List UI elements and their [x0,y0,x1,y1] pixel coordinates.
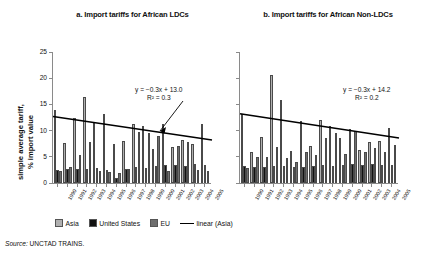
bar-b-1997-eu [315,155,317,183]
x-tick-b-8 [322,184,323,187]
bar-b-1998-eu [325,138,327,183]
y-tick-b-0 [236,183,239,184]
x-tick-b-2 [264,184,265,187]
bar-b-1990-eu [246,168,248,183]
panel-title-b: b. Import tariffs for African Non-LDCs [228,10,428,19]
legend-item-linear-asia-: linear (Asia) [180,220,233,227]
x-tick-label-b-4: 1994 [293,188,304,201]
x-tick-label-b-14: 2004 [391,188,402,201]
legend-color-swatch-united-states [89,219,97,227]
x-tick-b-5 [293,184,294,187]
x-tick-b-4 [283,184,284,187]
legend-item-united-states: United States [89,219,140,227]
source-value: UNCTAD TRAINS. [28,240,85,247]
x-tick-b-9 [332,184,333,187]
x-tick-b-11 [352,184,353,187]
source-note: Source: UNCTAD TRAINS. [5,240,84,247]
bar-b-2000-eu [344,154,346,183]
x-tick-label-b-15: 2005 [401,188,412,201]
bar-b-2004-eu [384,152,386,183]
x-tick-b-14 [381,184,382,187]
y-axis-label-line2: % import value [26,104,36,180]
bar-b-1993-eu [276,147,278,183]
y-tick-b-1 [236,156,239,157]
x-tick-label-b-0: 1990 [253,188,264,201]
legend-label: linear (Asia) [197,220,233,227]
legend-item-asia: Asia [55,219,79,227]
x-tick-b-10 [342,184,343,187]
y-axis-label: simple average tariff,% import value [16,104,35,180]
x-tick-b-0 [244,184,245,187]
x-tick-b-7 [313,184,314,187]
bar-b-2005-eu [394,145,396,183]
figure-root: a. Import tariffs for African LDCs051015… [0,0,433,257]
x-tick-b-13 [371,184,372,187]
r-squared-text: R² = 0.2 [343,94,390,102]
x-tick-b-12 [362,184,363,187]
y-axis-label-line1: simple average tariff, [16,104,26,180]
bar-b-1999-eu [335,133,337,183]
y-tick-b-5 [236,52,239,53]
x-tick-b-3 [273,184,274,187]
x-tick-label-b-9: 1999 [342,188,353,201]
legend-label: Asia [66,220,79,227]
bar-b-1994-eu [286,158,288,183]
bar-b-1996-eu [305,152,307,183]
x-tick-b-1 [254,184,255,187]
x-tick-label-b-10: 2000 [351,188,362,201]
equation-text: y = −0.3x + 14.2 [343,86,390,94]
legend-label: EU [161,220,170,227]
bar-b-2002-eu [364,152,366,183]
y-tick-b-4 [236,78,239,79]
bar-b-1992-eu [266,157,268,183]
x-tick-b-15 [391,184,392,187]
legend-label: United States [99,220,140,227]
bar-b-2001-eu [354,131,356,183]
y-tick-b-2 [236,130,239,131]
x-tick-b-6 [303,184,304,187]
legend-color-swatch-asia [55,219,63,227]
legend-line-swatch [180,223,194,224]
bar-b-1991-eu [256,157,258,183]
bar-b-2003-eu [374,148,376,183]
bar-b-1995-eu [295,162,297,183]
source-prefix: Source: [5,240,28,247]
trendline-equation-b: y = −0.3x + 14.2R² = 0.2 [343,86,390,103]
legend-item-eu: EU [150,219,170,227]
chart-legend: AsiaUnited StatesEUlinear (Asia) [55,219,240,227]
legend-color-swatch-eu [150,219,158,227]
y-tick-b-3 [236,104,239,105]
